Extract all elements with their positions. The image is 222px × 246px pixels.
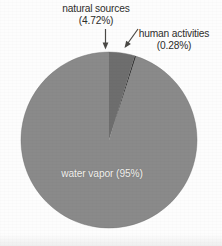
pie-label-natural-sources: natural sources (4.72%) [48, 3, 144, 26]
pie-label-natural-sources-name: natural sources [62, 3, 129, 14]
pie-label-human-activities-name: human activities [139, 28, 210, 39]
pie-label-water-vapor-percent: (95%) [116, 168, 143, 179]
pie-label-human-activities: human activities (0.28%) [128, 28, 220, 51]
pie-label-water-vapor-name: water vapor [61, 168, 113, 179]
pie-label-natural-sources-percent: (4.72%) [48, 15, 144, 27]
pie-label-human-activities-percent: (0.28%) [128, 40, 220, 52]
arrow-down-icon [103, 29, 109, 50]
pie-chart-figure: natural sources (4.72%) human activities… [0, 0, 222, 246]
pie-label-water-vapor: water vapor (95%) [54, 168, 150, 180]
pie-slice-water-vapor [21, 52, 197, 228]
